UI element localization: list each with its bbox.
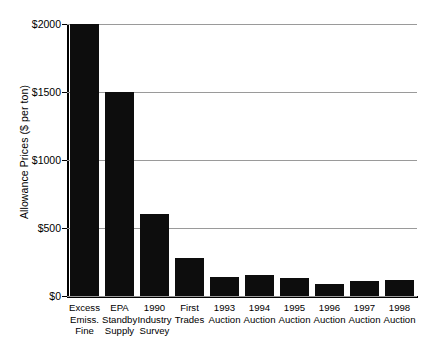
plot-area: [67, 24, 417, 296]
x-tick-label: 1996 Auction: [312, 302, 347, 325]
y-tick-label: $2000: [1, 19, 61, 30]
gridline: [67, 24, 417, 25]
bar: [245, 275, 274, 296]
y-axis-title: Allowance Prices ($ per ton): [16, 2, 32, 302]
x-tick-label: 1993 Auction: [207, 302, 242, 325]
y-tick-label: $1500: [1, 87, 61, 98]
x-tick-label: 1990 Industry Survey: [137, 302, 172, 337]
x-tick-label: 1995 Auction: [277, 302, 312, 325]
gridline: [67, 296, 417, 297]
y-tick-label: $1000: [1, 155, 61, 166]
bar: [105, 92, 134, 296]
bar: [210, 277, 239, 296]
bar: [140, 214, 169, 296]
chart-figure: Allowance Prices ($ per ton) $0$500$1000…: [0, 0, 432, 353]
bar: [280, 278, 309, 296]
x-tick-label: 1997 Auction: [347, 302, 382, 325]
x-tick-label: EPA Standby Supply: [102, 302, 137, 337]
x-tick-label: 1994 Auction: [242, 302, 277, 325]
y-tick-label: $0: [1, 291, 61, 302]
x-tick-label: 1998 Auction: [382, 302, 417, 325]
bar: [385, 280, 414, 296]
bar: [175, 258, 204, 296]
x-tick-label: First Trades: [172, 302, 207, 325]
bar: [70, 24, 99, 296]
y-tick-label: $500: [1, 223, 61, 234]
bar: [350, 281, 379, 296]
x-tick-label: Excess Emiss. Fine: [67, 302, 102, 337]
bar: [315, 284, 344, 296]
